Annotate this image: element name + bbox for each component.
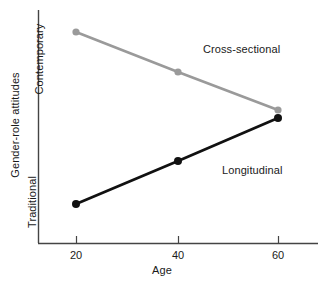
y-axis-label-contemporary: Contemporary: [33, 14, 45, 104]
data-point-longitudinal-20: [72, 200, 80, 208]
data-point-cross-sectional-60: [274, 106, 281, 113]
y-axis-label-traditional: Traditional: [26, 162, 38, 242]
chart-figure: Gender-role attitudes Contemporary Tradi…: [0, 0, 324, 285]
x-tick-label-20: 20: [56, 249, 96, 261]
series-annotation-cross-sectional: Cross-sectional: [203, 43, 280, 55]
data-point-longitudinal-40: [174, 157, 182, 165]
data-point-longitudinal-60: [274, 114, 282, 122]
x-axis-title: Age: [0, 264, 324, 276]
data-point-cross-sectional-40: [174, 68, 181, 75]
series-annotation-longitudinal: Longitudinal: [222, 164, 283, 176]
data-point-cross-sectional-20: [72, 28, 79, 35]
y-axis-title: Gender-role attitudes: [9, 65, 21, 185]
x-tick-label-60: 60: [258, 249, 298, 261]
x-tick-label-40: 40: [158, 249, 198, 261]
